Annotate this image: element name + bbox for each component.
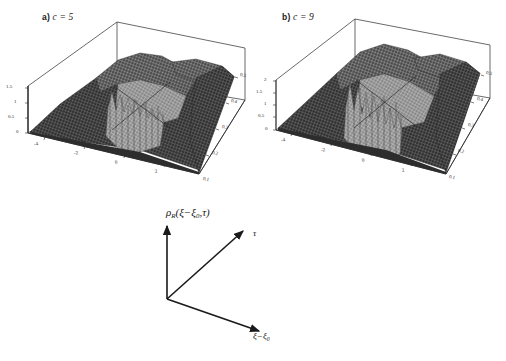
panel-a-y-tick-0: 0.5 xyxy=(239,72,246,78)
panel-a-y-tick-1: 0.4 xyxy=(230,98,237,104)
legend-y-axis-arrow xyxy=(167,231,243,299)
panel-b-surface xyxy=(278,44,490,177)
axis-orientation-legend: ρR(ξ−ξ0,τ) τ ξ−ξ0 xyxy=(140,186,390,361)
panel-b-x-tick-0: -4 xyxy=(280,137,285,143)
panel-a-y-tick-3: 0.2 xyxy=(211,150,218,156)
panel-a-z-ticks xyxy=(25,88,28,133)
panel-a-x-tick-3: 2 xyxy=(154,169,158,174)
panel-a-y-tick-4: 0.1 xyxy=(202,176,209,182)
legend-x-axis-arrow xyxy=(167,299,259,331)
legend-tau-axis-label: τ xyxy=(253,228,256,238)
legend-z-axis-label: ρR(ξ−ξ0,τ) xyxy=(166,206,210,219)
legend-close-paren: ) xyxy=(206,206,210,218)
panel-b-z-tick-2: 1 xyxy=(264,101,267,106)
panel-b-y-tick-3: 0.2 xyxy=(457,148,464,154)
surface-plot-panel-b: b) c = 9 xyxy=(250,0,503,200)
panel-a-z-tick-3: 0 xyxy=(16,129,19,134)
panel-a-x-tick-1: -2 xyxy=(73,150,78,156)
panel-b-x-tick-1: -2 xyxy=(320,147,325,153)
panel-a-x-tick-0: -4 xyxy=(33,141,38,147)
panel-b-z-tick-1: 1.5 xyxy=(256,89,262,94)
surface-plot-panel-a: a) c = 5 xyxy=(0,0,253,200)
panel-a-z-tick-1: 1 xyxy=(14,99,17,104)
panel-b-z-tick-4: 0 xyxy=(265,126,268,131)
panel-b-y-tick-0: 0.5 xyxy=(485,70,492,76)
panel-b-z-ticks xyxy=(273,81,276,130)
panel-a-svg xyxy=(0,0,253,200)
panel-b-y-tick-4: 0.1 xyxy=(448,174,455,180)
panel-a-z-tick-2: 0.5 xyxy=(8,114,14,119)
figure-container: a) c = 5 xyxy=(0,0,506,361)
panel-a-y-tick-2: 0.3 xyxy=(221,124,228,130)
legend-xi-axis-subscript: 0 xyxy=(267,336,270,342)
legend-xi-axis-label: ξ−ξ0 xyxy=(253,331,270,342)
panel-b-x-tick-2: 0 xyxy=(361,158,365,163)
panel-a-surface xyxy=(30,53,245,176)
panel-b-svg xyxy=(250,0,506,200)
panel-b-x-tick-3: 2 xyxy=(401,168,405,173)
panel-b-z-tick-0: 2 xyxy=(264,77,267,82)
panel-b-z-tick-3: 0.5 xyxy=(258,113,264,118)
panel-b-y-tick-2: 0.3 xyxy=(467,122,474,128)
panel-b-y-tick-1: 0.4 xyxy=(476,96,483,102)
panel-a-x-tick-2: 0 xyxy=(114,160,118,165)
panel-a-z-tick-0: 1.5 xyxy=(6,84,12,89)
